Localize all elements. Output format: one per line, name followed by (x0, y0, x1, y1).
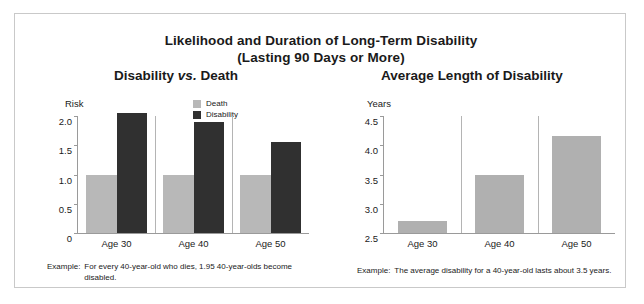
bar-age-50-death (240, 175, 271, 234)
caption-left: Example: For every 40-year-old who dies,… (47, 262, 313, 283)
bar-age-30-years (398, 221, 447, 233)
y-axis-unit-right: Years (367, 98, 391, 109)
bar-age-40-years (475, 175, 524, 234)
chart-title-block: Likelihood and Duration of Long-Term Dis… (15, 32, 627, 66)
caption-left-key: Example: (47, 262, 80, 283)
caption-left-text: For every 40-year-old who dies, 1.95 40-… (84, 262, 313, 283)
x-axis-label: Age 30 (407, 238, 437, 249)
plot-area-left: 00.51.01.52.0Age 30Age 40Age 50 (77, 116, 309, 234)
caption-right: Example: The average disability for a 40… (357, 266, 619, 277)
chart-frame: Likelihood and Duration of Long-Term Dis… (14, 13, 626, 288)
bar-age-40-death (163, 175, 194, 234)
caption-right-key: Example: (357, 266, 390, 277)
x-axis-label: Age 40 (484, 238, 514, 249)
y-axis-unit-left: Risk (65, 98, 83, 109)
panel-title-left-part2: Death (200, 68, 238, 83)
bar-age-30-disability (117, 113, 148, 233)
bar-age-50-disability (271, 142, 302, 233)
x-axis-label: Age 40 (178, 238, 208, 249)
group-separator (538, 116, 539, 233)
bar-age-50-years (552, 136, 601, 233)
panel-disability-vs-death: Risk 00.51.01.52.0Age 30Age 40Age 50 (31, 94, 321, 290)
panel-title-right: Average Length of Disability (329, 68, 615, 83)
chart-figure: Likelihood and Duration of Long-Term Dis… (0, 0, 644, 304)
panel-title-left-part1: Disability (114, 68, 174, 83)
group-separator (155, 116, 156, 233)
bar-age-30-death (86, 175, 117, 234)
group-separator (232, 116, 233, 233)
panel-average-length: Years 2.53.03.54.04.5Age 30Age 40Age 50 (337, 94, 627, 290)
panel-title-left-italic: vs. (178, 68, 197, 83)
bar-age-40-disability (194, 122, 225, 233)
chart-title-line-2: (Lasting 90 Days or More) (15, 49, 627, 66)
chart-title-line-1: Likelihood and Duration of Long-Term Dis… (15, 32, 627, 49)
x-axis-label: Age 50 (255, 238, 285, 249)
panel-title-left: Disability vs. Death (33, 68, 319, 83)
x-axis-label: Age 30 (101, 238, 131, 249)
plot-area-right: 2.53.03.54.04.5Age 30Age 40Age 50 (383, 116, 615, 234)
x-axis-label: Age 50 (561, 238, 591, 249)
group-separator (461, 116, 462, 233)
caption-right-text: The average disability for a 40-year-old… (394, 266, 611, 277)
